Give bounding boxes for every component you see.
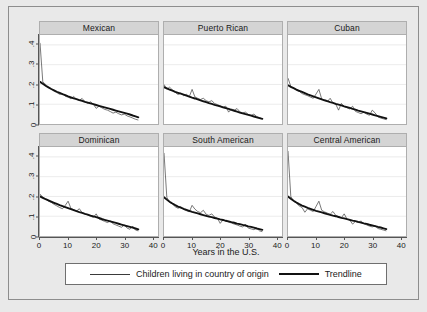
plot-area <box>39 34 159 125</box>
panel-title: Puerto Rican <box>163 21 283 34</box>
legend-item-trendline: Trendline <box>279 269 362 279</box>
chart-legend: Children living in country of origin Tre… <box>65 263 387 285</box>
x-tick-mark <box>125 237 126 240</box>
legend-swatch-thin-line <box>90 274 130 275</box>
panel-puerto-rican: Puerto Rican <box>163 21 283 125</box>
x-tick-mark <box>39 237 40 240</box>
y-axis: 0.1.2.3.4 <box>9 146 39 237</box>
x-tick-mark <box>287 237 288 240</box>
y-tick-label: 0 <box>31 121 35 130</box>
plot-area <box>163 34 283 125</box>
y-tick-mark <box>36 84 39 85</box>
panel-central-american: Central American010203040 <box>287 133 407 237</box>
x-tick-mark <box>163 237 164 240</box>
y-tick-label: .3 <box>28 172 35 181</box>
x-tick-mark <box>192 237 193 240</box>
x-tick-mark <box>153 237 154 240</box>
series-children-living-in-country-of-origin <box>164 153 262 232</box>
series-children-living-in-country-of-origin <box>40 43 138 120</box>
x-axis-title: Years in the U.S. <box>39 247 413 257</box>
y-tick-label: .2 <box>28 80 35 89</box>
y-tick-label: .4 <box>28 40 35 49</box>
y-tick-mark <box>36 216 39 217</box>
x-tick-mark <box>344 237 345 240</box>
panel-mexican: Mexican0.1.2.3.4 <box>39 21 159 125</box>
plot-area <box>287 146 407 237</box>
series-trendline <box>40 196 138 229</box>
x-tick-mark <box>68 237 69 240</box>
series-trendline <box>288 85 386 118</box>
y-tick-label: .1 <box>28 212 35 221</box>
y-tick-label: .4 <box>28 152 35 161</box>
series-trendline <box>40 82 138 117</box>
plot-area <box>163 146 283 237</box>
y-tick-mark <box>36 44 39 45</box>
panel-title: Dominican <box>39 133 159 146</box>
legend-label-raw: Children living in country of origin <box>136 269 269 279</box>
series-children-living-in-country-of-origin <box>164 84 262 118</box>
panel-title: Cuban <box>287 21 407 34</box>
y-tick-mark <box>36 64 39 65</box>
y-tick-label: .1 <box>28 100 35 109</box>
panel-cuban: Cuban <box>287 21 407 125</box>
panel-grid: Mexican0.1.2.3.4Puerto RicanCubanDominic… <box>39 21 413 243</box>
y-tick-label: 0 <box>31 233 35 242</box>
x-tick-mark <box>316 237 317 240</box>
y-tick-label: .2 <box>28 192 35 201</box>
x-tick-mark <box>220 237 221 240</box>
y-axis: 0.1.2.3.4 <box>9 34 39 125</box>
panel-dominican: Dominican0.1.2.3.4010203040 <box>39 133 159 237</box>
chart-root: Mexican0.1.2.3.4Puerto RicanCubanDominic… <box>0 0 427 312</box>
y-tick-mark <box>36 156 39 157</box>
y-tick-mark <box>36 104 39 105</box>
plot-area <box>39 146 159 237</box>
x-tick-mark <box>277 237 278 240</box>
legend-item-raw: Children living in country of origin <box>90 269 269 279</box>
series-trendline <box>288 196 386 229</box>
y-tick-label: .3 <box>28 60 35 69</box>
y-axis-line <box>38 34 39 125</box>
panel-title: Central American <box>287 133 407 146</box>
plot-area <box>287 34 407 125</box>
x-tick-mark <box>373 237 374 240</box>
chart-frame: Mexican0.1.2.3.4Puerto RicanCubanDominic… <box>8 6 419 300</box>
legend-swatch-thick-line <box>279 273 319 275</box>
x-tick-mark <box>401 237 402 240</box>
panel-title: South American <box>163 133 283 146</box>
x-axis-line <box>39 237 159 238</box>
x-axis-line <box>287 237 407 238</box>
y-axis-line <box>38 146 39 237</box>
series-trendline <box>164 87 262 119</box>
series-trendline <box>164 197 262 230</box>
series-children-living-in-country-of-origin <box>288 151 386 231</box>
y-tick-mark <box>36 196 39 197</box>
panel-title: Mexican <box>39 21 159 34</box>
y-tick-mark <box>36 176 39 177</box>
x-tick-mark <box>96 237 97 240</box>
x-tick-mark <box>249 237 250 240</box>
legend-label-trendline: Trendline <box>325 269 362 279</box>
panel-south-american: South American010203040 <box>163 133 283 237</box>
x-axis-line <box>163 237 283 238</box>
